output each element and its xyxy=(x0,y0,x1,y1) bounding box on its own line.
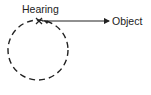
object-label: Object xyxy=(112,16,142,27)
hearing-label: Hearing xyxy=(22,4,59,15)
x-marker-icon xyxy=(36,18,42,24)
diagram-canvas: Hearing Object xyxy=(0,0,151,95)
dashed-circle xyxy=(8,20,68,80)
